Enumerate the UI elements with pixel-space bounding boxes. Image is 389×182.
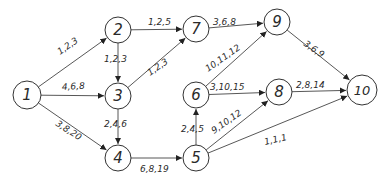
edge-8-10	[292, 90, 346, 91]
edge-label-2-3: 1,2,3	[104, 54, 127, 64]
node-10: 10	[347, 75, 377, 105]
node-label: 6	[191, 86, 201, 104]
edge-6-8	[209, 93, 265, 95]
edge-label-6-9: 10,11,12	[203, 42, 242, 73]
node-label: 10	[354, 83, 371, 98]
node-label: 1	[22, 86, 32, 104]
edge-label-3-4: 2,4,6	[104, 119, 127, 129]
graph-svg: 1,2,34,6,83,8,201,2,51,2,31,2,32,4,66,8,…	[0, 0, 389, 182]
edge-label-9-10: 3,6,9	[302, 38, 327, 59]
node-label: 3	[113, 87, 123, 105]
node-2: 2	[105, 17, 131, 43]
edge-label-3-7: 1,2,3	[145, 56, 170, 77]
edge-label-1-4: 3,8,20	[54, 118, 84, 142]
edge-1-3	[41, 95, 104, 96]
edge-label-1-3: 4,6,8	[62, 81, 86, 92]
node-4: 4	[105, 145, 131, 171]
node-7: 7	[183, 16, 209, 42]
node-3: 3	[105, 83, 131, 109]
edge-label-8-10: 2,8,14	[296, 80, 325, 90]
edge-label-5-10: 1,1,1	[263, 132, 288, 147]
edge-label-5-6: 2,4,5	[181, 124, 204, 134]
node-5: 5	[183, 145, 209, 171]
node-9: 9	[264, 9, 290, 35]
network-diagram: 1,2,34,6,83,8,201,2,51,2,31,2,32,4,66,8,…	[0, 0, 389, 182]
node-label: 2	[113, 21, 123, 39]
edge-label-1-2: 1,2,3	[55, 35, 80, 56]
node-label: 4	[113, 149, 123, 167]
edge-label-4-5: 6,8,19	[140, 164, 169, 174]
edge-label-5-8: 9,10,12	[209, 108, 243, 136]
node-6: 6	[183, 82, 209, 108]
node-label: 9	[272, 13, 282, 31]
edge-label-7-9: 3,6,8	[213, 17, 236, 27]
node-label: 5	[191, 149, 201, 167]
edge-label-2-7: 1,2,5	[148, 17, 171, 27]
node-1: 1	[13, 81, 41, 109]
node-label: 7	[191, 20, 201, 38]
node-label: 8	[274, 83, 284, 101]
edge-label-6-8: 3,10,15	[210, 82, 245, 92]
edge-2-7	[131, 29, 182, 30]
node-8: 8	[266, 79, 292, 105]
